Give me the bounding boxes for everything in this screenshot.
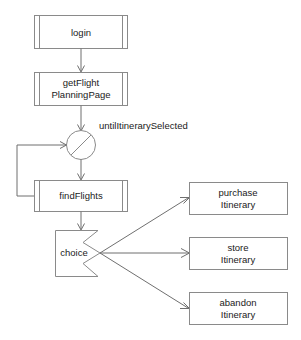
edge-findflights-to-choice — [78, 212, 85, 231]
node-choice[interactable]: choice — [56, 231, 101, 277]
purchase-label-line1: purchase — [218, 187, 257, 198]
choice-label: choice — [60, 247, 87, 258]
edge-loop-to-findflights — [78, 160, 85, 181]
getflight-label-line2: PlanningPage — [51, 89, 110, 100]
loop-guard-label: untilItinerarySelected — [99, 120, 188, 131]
node-loop[interactable] — [67, 131, 96, 160]
edge-choice-abandon-line — [100, 253, 188, 308]
edge-login-to-getflight — [78, 49, 85, 73]
purchase-label-line2: Itinerary — [221, 199, 256, 210]
store-label-line2: Itinerary — [221, 254, 256, 265]
activity-diagram-canvas: login getFlight PlanningPage untilItiner… — [0, 0, 301, 340]
node-abandon-itinerary[interactable]: abandon Itinerary — [190, 293, 288, 325]
login-label: login — [71, 27, 91, 38]
store-label-line1: store — [227, 242, 248, 253]
abandon-label-line2: Itinerary — [221, 309, 256, 320]
findflights-label: findFlights — [59, 190, 103, 201]
node-store-itinerary[interactable]: store Itinerary — [190, 238, 288, 270]
node-login[interactable]: login — [35, 16, 128, 49]
edge-choice-to-store — [100, 249, 190, 258]
edge-choice-to-abandon — [100, 253, 190, 309]
node-getflightplanningpage[interactable]: getFlight PlanningPage — [35, 73, 128, 106]
node-findflights[interactable]: findFlights — [35, 181, 128, 212]
edge-getflight-to-loop — [78, 106, 85, 132]
diagram-svg: login getFlight PlanningPage untilItiner… — [0, 0, 301, 340]
abandon-label-line1: abandon — [220, 297, 257, 308]
node-purchase-itinerary[interactable]: purchase Itinerary — [190, 183, 288, 215]
getflight-label-line1: getFlight — [63, 77, 100, 88]
